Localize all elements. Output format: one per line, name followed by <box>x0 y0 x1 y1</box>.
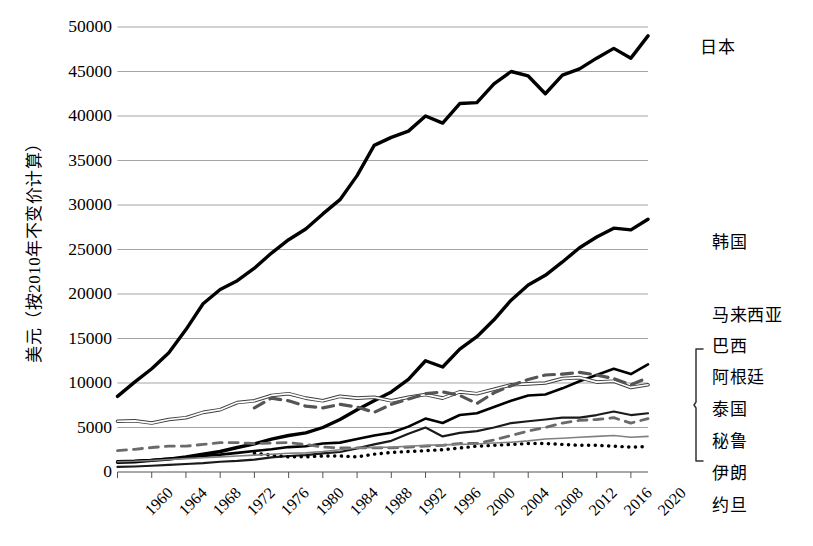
legend-label-5: 泰国 <box>712 395 747 420</box>
legend-label-8: 约旦 <box>712 491 747 516</box>
x-tick-label: 1968 <box>209 484 244 519</box>
x-tick-label: 2008 <box>552 484 587 519</box>
x-tick-label: 1964 <box>175 484 210 519</box>
legend-label-7: 伊朗 <box>712 459 747 484</box>
x-tick-label: 2004 <box>517 484 552 519</box>
x-tick-label: 2012 <box>586 484 621 519</box>
x-tick-label: 1984 <box>346 484 381 519</box>
x-tick-label: 1976 <box>278 484 313 519</box>
legend-label-1: 韩国 <box>712 228 747 253</box>
legend-label-3: 巴西 <box>712 332 747 357</box>
x-tick-label: 2016 <box>620 484 655 519</box>
legend-label-6: 秘鲁 <box>712 427 747 452</box>
x-tick-label: 1980 <box>312 484 347 519</box>
legend-label-0: 日本 <box>700 33 735 58</box>
x-tick-label: 2000 <box>483 484 518 519</box>
x-tick-label: 1960 <box>141 484 176 519</box>
chart-container: 美元（按2010年不变价计算） 050001000015000200002500… <box>0 0 813 546</box>
x-tick-label: 1972 <box>244 484 279 519</box>
x-tick-label: 1992 <box>415 484 450 519</box>
x-tick-label: 1996 <box>449 484 484 519</box>
legend-label-2: 马来西亚 <box>712 301 782 326</box>
x-tick-label: 2020 <box>654 484 689 519</box>
x-axis-tick-labels: 1960196419681972197619801984198819921996… <box>0 0 813 546</box>
legend-label-4: 阿根廷 <box>712 363 765 388</box>
x-tick-label: 1988 <box>380 484 415 519</box>
